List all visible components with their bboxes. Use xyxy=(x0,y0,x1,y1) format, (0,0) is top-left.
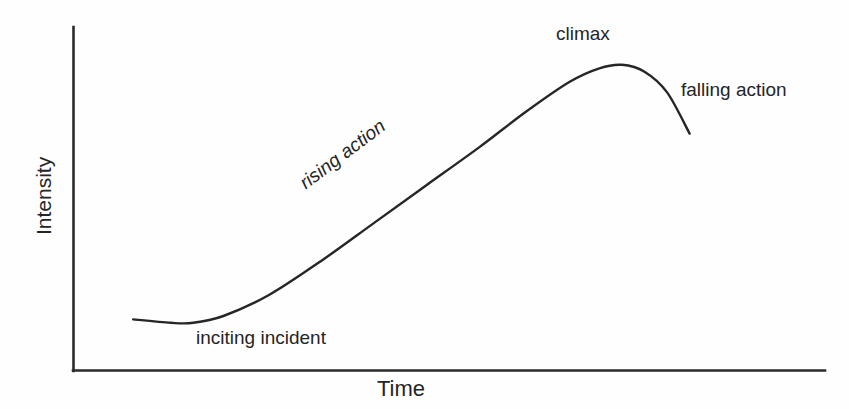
annotation-climax: climax xyxy=(556,24,610,43)
x-axis-label: Time xyxy=(377,378,425,400)
annotation-inciting-incident: inciting incident xyxy=(196,328,326,347)
annotation-falling-action: falling action xyxy=(681,80,787,99)
plot-diagram-figure: climax falling action rising action inci… xyxy=(0,0,849,409)
y-axis-label: Intensity xyxy=(33,157,54,235)
plot-diagram-canvas xyxy=(0,0,849,409)
narrative-arc-curve xyxy=(133,65,689,324)
